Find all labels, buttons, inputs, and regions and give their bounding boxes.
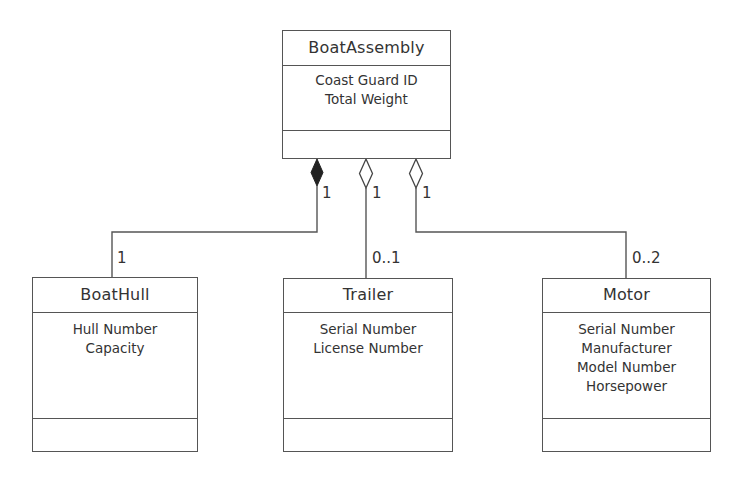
class-name: BoatHull: [33, 278, 197, 313]
attribute: Serial Number: [284, 320, 452, 339]
multiplicity-trailer: 0..1: [372, 249, 401, 267]
class-attributes: Serial Number Manufacturer Model Number …: [543, 320, 710, 396]
aggregation-trailer: [360, 159, 373, 278]
attribute: Capacity: [33, 339, 197, 358]
class-operations: [543, 418, 710, 451]
class-operations: [33, 418, 197, 451]
class-boat-hull[interactable]: BoatHull Hull Number Capacity: [32, 277, 198, 452]
multiplicity-assembly-motor: 1: [422, 184, 432, 202]
class-boat-assembly[interactable]: BoatAssembly Coast Guard ID Total Weight: [282, 30, 451, 159]
attribute: Horsepower: [543, 377, 710, 396]
attribute: Total Weight: [283, 90, 450, 109]
class-trailer[interactable]: Trailer Serial Number License Number: [283, 278, 453, 452]
aggregation-motor: [410, 159, 627, 278]
class-name: BoatAssembly: [283, 31, 450, 66]
class-attributes: Hull Number Capacity: [33, 320, 197, 358]
multiplicity-assembly-hull: 1: [322, 184, 332, 202]
attribute: Coast Guard ID: [283, 71, 450, 90]
class-name: Motor: [543, 279, 710, 313]
class-name: Trailer: [284, 279, 452, 313]
filled-diamond-icon: [311, 159, 323, 186]
attribute: License Number: [284, 339, 452, 358]
multiplicity-assembly-trailer: 1: [372, 184, 382, 202]
attribute: Model Number: [543, 358, 710, 377]
hollow-diamond-icon: [410, 159, 423, 188]
class-operations: [284, 418, 452, 451]
attribute: Serial Number: [543, 320, 710, 339]
multiplicity-motor: 0..2: [632, 249, 661, 267]
attribute: Manufacturer: [543, 339, 710, 358]
class-motor[interactable]: Motor Serial Number Manufacturer Model N…: [542, 278, 711, 452]
attribute: Hull Number: [33, 320, 197, 339]
class-attributes: Coast Guard ID Total Weight: [283, 71, 450, 109]
hollow-diamond-icon: [360, 159, 373, 188]
class-attributes: Serial Number License Number: [284, 320, 452, 358]
composition-boathull: [112, 159, 323, 277]
multiplicity-hull: 1: [117, 249, 127, 267]
class-operations: [283, 130, 450, 158]
